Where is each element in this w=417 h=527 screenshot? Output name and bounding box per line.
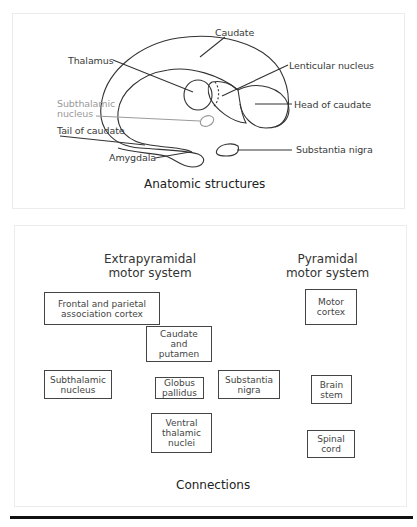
- bottom-rule-divider: [10, 516, 413, 519]
- box-substantia-nigra: Substantianigra: [218, 370, 280, 399]
- box-spinal-line1: Spinal: [317, 434, 345, 444]
- box-caudate-line1: Caudate: [159, 329, 199, 339]
- heading-extrapyramidal-line2: motor system: [95, 266, 205, 280]
- box-caudate-line2: and: [159, 339, 199, 349]
- box-motor-line2: cortex: [317, 307, 345, 317]
- label-head-of-caudate: Head of caudate: [294, 99, 371, 110]
- box-ventral-line1: Ventral: [162, 418, 201, 428]
- caption-connections: Connections: [176, 478, 250, 492]
- substantia-nigra-shape: [216, 144, 238, 156]
- box-brainstem-line2: stem: [320, 390, 344, 400]
- heading-extrapyramidal: Extrapyramidal motor system: [95, 252, 205, 280]
- heading-pyramidal-line1: Pyramidal: [285, 252, 370, 266]
- label-caudate: Caudate: [215, 27, 254, 38]
- box-subthalamic-line1: Subthalamic: [50, 375, 106, 385]
- heading-extrapyramidal-line1: Extrapyramidal: [95, 252, 205, 266]
- label-tail-of-caudate: Tail of caudate: [57, 125, 125, 136]
- box-caudate-putamen: Caudateandputamen: [146, 326, 212, 362]
- box-globus-line2: pallidus: [162, 388, 197, 398]
- box-ventral-thalamic-nuclei: Ventralthalamicnuclei: [151, 413, 212, 453]
- box-subthalamic-line2: nucleus: [50, 385, 106, 395]
- box-substantia-line2: nigra: [225, 385, 273, 395]
- label-thalamus: Thalamus: [68, 55, 114, 66]
- label-substantia-nigra: Substantia nigra: [296, 144, 373, 155]
- thalamus-shape: [184, 80, 212, 110]
- box-frontal-parietal-cortex: Frontal and parietalassociation cortex: [44, 292, 160, 325]
- heading-pyramidal-line2: motor system: [285, 266, 370, 280]
- box-globus-pallidus: Globuspallidus: [155, 377, 204, 399]
- label-subthalamic-nucleus-line2: nucleus: [57, 108, 93, 119]
- box-ventral-line2: thalamic: [162, 428, 201, 438]
- box-spinal-cord: Spinalcord: [307, 430, 355, 458]
- box-motor-cortex: Motorcortex: [305, 289, 357, 325]
- box-subthalamic-nucleus: Subthalamicnucleus: [44, 370, 112, 399]
- subthalamic-nucleus-shape: [199, 114, 216, 129]
- box-spinal-line2: cord: [317, 444, 345, 454]
- box-globus-line1: Globus: [162, 378, 197, 388]
- lenticular-hidden-edge: [214, 82, 219, 106]
- box-substantia-line1: Substantia: [225, 375, 273, 385]
- box-brainstem-line1: Brain: [320, 380, 344, 390]
- box-ventral-line3: nuclei: [162, 438, 201, 448]
- label-amygdala: Amygdala: [109, 152, 156, 163]
- box-caudate-line3: putamen: [159, 349, 199, 359]
- box-frontal-line1: Frontal and parietal: [58, 299, 146, 309]
- box-frontal-line2: association cortex: [58, 309, 146, 319]
- caudate-outer-outline: [101, 36, 289, 167]
- box-brain-stem: Brainstem: [311, 375, 352, 404]
- caption-anatomic-structures: Anatomic structures: [144, 177, 265, 191]
- heading-pyramidal: Pyramidal motor system: [285, 252, 370, 280]
- label-lenticular-nucleus: Lenticular nucleus: [289, 60, 374, 71]
- box-motor-line1: Motor: [317, 297, 345, 307]
